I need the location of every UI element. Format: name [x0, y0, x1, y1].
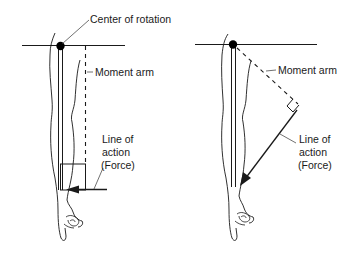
- right-right-angle-marker: [287, 99, 299, 112]
- left-hand: [64, 216, 79, 228]
- right-line-of-action-label-1: Line of: [299, 133, 331, 146]
- left-figure: [22, 20, 125, 240]
- left-moment-arm-label: Moment arm: [95, 66, 154, 79]
- left-center-of-rotation-label: Center of rotation: [90, 13, 171, 26]
- left-arm-outline-right: [67, 60, 83, 227]
- left-line-of-action-label-3: (Force): [101, 159, 135, 172]
- right-leader-moment: [266, 70, 276, 71]
- left-leader-center: [62, 20, 89, 44]
- right-line-of-action-label-2: action: [299, 146, 327, 159]
- left-arm-outline: [50, 33, 66, 240]
- right-arm-outline-right: [239, 61, 254, 223]
- right-moment-arm-label: Moment arm: [278, 64, 337, 77]
- right-leader-force: [280, 134, 296, 143]
- left-line-of-action-label-1: Line of: [102, 133, 134, 146]
- right-hand: [235, 213, 250, 225]
- left-line-of-action-label-2: action: [102, 146, 130, 159]
- moment-arm-diagram: [0, 0, 353, 253]
- right-arm-outline: [222, 34, 237, 240]
- right-line-of-action-label-3: (Force): [298, 159, 332, 172]
- right-force-line: [245, 110, 297, 179]
- right-pivot-dot: [229, 40, 237, 48]
